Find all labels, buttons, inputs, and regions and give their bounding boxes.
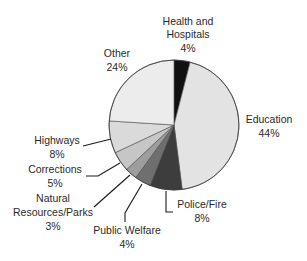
pie-slices	[109, 60, 239, 190]
label-highways: Highways	[34, 134, 80, 146]
label-health-line2: Hospitals	[166, 28, 209, 40]
label-public-welfare: Public Welfare	[93, 224, 161, 236]
leader-line-police-fire	[166, 191, 173, 212]
label-other-pct: 24%	[106, 61, 127, 73]
label-corrections-pct: 5%	[47, 177, 62, 189]
label-other: Other	[104, 47, 131, 59]
label-police-fire-pct: 8%	[194, 212, 209, 224]
label-natural-line2: Resources/Parks	[13, 206, 93, 218]
label-health-line1: Health and	[163, 15, 214, 27]
label-highways-pct: 8%	[49, 148, 64, 160]
leader-line-natural-resources	[94, 175, 130, 207]
leader-line-corrections	[86, 163, 120, 176]
pie-chart: Health and Hospitals 4% Education 44% Po…	[0, 0, 307, 261]
label-natural-pct: 3%	[45, 220, 60, 232]
label-corrections: Corrections	[28, 163, 82, 175]
leader-line-public-welfare	[125, 184, 142, 222]
leader-line-highways	[83, 139, 111, 146]
label-education: Education	[246, 113, 293, 125]
label-police-fire: Police/Fire	[177, 198, 227, 210]
label-health-pct: 4%	[180, 42, 195, 54]
label-natural-line1: Natural	[36, 192, 70, 204]
label-education-pct: 44%	[258, 127, 279, 139]
label-public-welfare-pct: 4%	[119, 238, 134, 250]
